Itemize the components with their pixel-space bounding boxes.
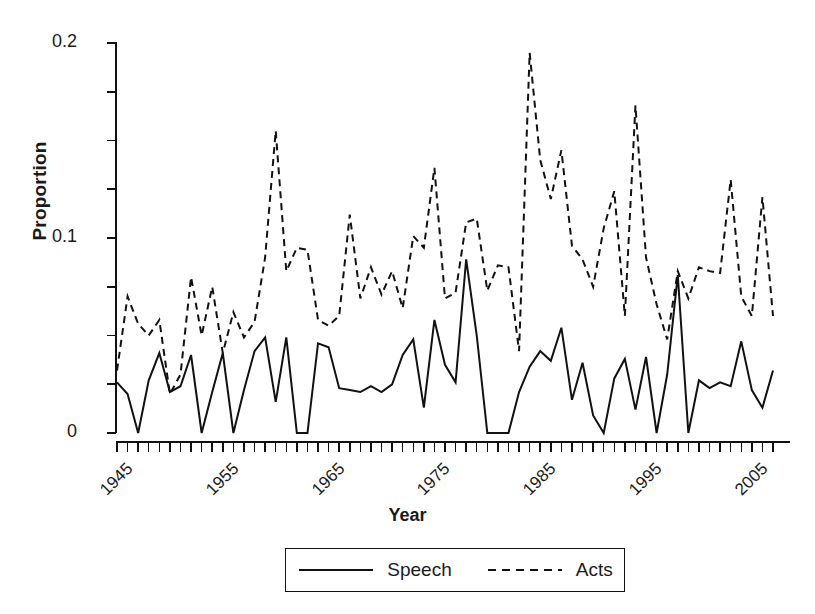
legend-item-acts: Acts: [486, 559, 613, 581]
legend-line-sample-acts: [486, 563, 564, 577]
legend-line-sample-speech: [297, 563, 375, 577]
series-line-speech: [117, 259, 773, 433]
legend-label: Speech: [387, 559, 451, 581]
axes: [107, 42, 790, 452]
chart-figure: Proportion Year 00.10.2 1945195519651975…: [0, 0, 815, 614]
data-series: [117, 53, 773, 433]
legend-label: Acts: [576, 559, 613, 581]
series-line-acts: [117, 53, 773, 394]
legend: SpeechActs: [285, 548, 625, 592]
plot-area: [0, 0, 815, 614]
legend-item-speech: Speech: [297, 559, 451, 581]
